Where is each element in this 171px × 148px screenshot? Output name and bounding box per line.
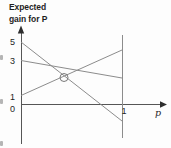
x-axis-label: p	[155, 108, 161, 118]
scan-artifact	[0, 141, 3, 146]
y-tick-label-0: 0	[3, 104, 15, 114]
y-axis-arrow-icon	[18, 26, 24, 34]
payoff-line-2	[21, 61, 122, 79]
chart-title: Expected gain for P	[9, 2, 47, 25]
payoff-line-3	[21, 50, 122, 96]
y-tick-label-5: 5	[3, 37, 15, 47]
expected-gain-figure: Expected gain for P 5 3 1 0 1 p	[0, 0, 171, 148]
scan-artifact	[0, 99, 3, 104]
x-tick-label-1: 1	[122, 106, 127, 116]
scan-artifact	[0, 55, 3, 60]
y-tick-label-1: 1	[3, 92, 15, 102]
payoff-line-1	[21, 42, 122, 121]
y-tick-label-3: 3	[3, 56, 15, 66]
chart-title-line1: Expected	[9, 2, 47, 14]
chart-title-line2: gain for P	[9, 14, 47, 26]
